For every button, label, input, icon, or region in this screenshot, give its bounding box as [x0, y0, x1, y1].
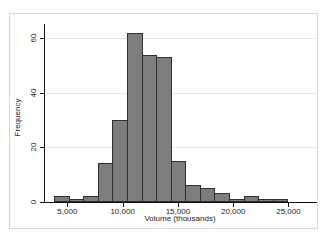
stata-histogram-figure: Frequency Volume (thousands) 02040605,00…: [0, 0, 324, 241]
y-tick-label: 60: [28, 18, 40, 58]
gridline: [45, 147, 317, 148]
x-tick-label: 20,000: [211, 207, 255, 217]
y-axis-line: [44, 24, 45, 202]
y-axis-tick: [40, 93, 44, 94]
y-tick-label: 20: [28, 127, 40, 167]
y-axis-tick: [40, 38, 44, 39]
histogram-bar: [156, 57, 172, 202]
gridline: [45, 38, 317, 39]
y-axis-tick: [40, 147, 44, 148]
histogram-bar: [127, 33, 143, 203]
histogram-bar: [142, 55, 158, 203]
x-axis-line: [44, 202, 317, 203]
y-tick-label: 0: [28, 182, 40, 222]
x-tick-label: 10,000: [101, 207, 145, 217]
histogram-bar: [98, 163, 114, 202]
histogram-bar: [112, 120, 128, 203]
x-tick-label: 5,000: [45, 207, 89, 217]
y-tick-label: 40: [28, 73, 40, 113]
y-axis-title: Frequency: [12, 93, 23, 143]
gridline: [45, 93, 317, 94]
x-tick-label: 25,000: [266, 207, 310, 217]
histogram-bar: [185, 185, 201, 202]
plot-area: Frequency Volume (thousands) 02040605,00…: [0, 0, 324, 241]
histogram-bar: [171, 161, 187, 203]
x-tick-label: 15,000: [156, 207, 200, 217]
histogram-bar: [200, 188, 216, 203]
y-axis-tick: [40, 202, 44, 203]
